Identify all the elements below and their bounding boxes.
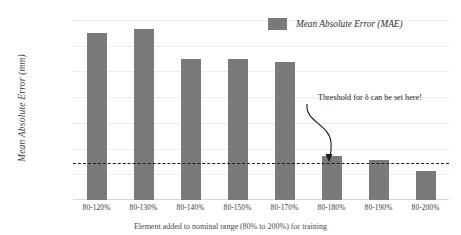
- bar[interactable]: [369, 160, 389, 200]
- bar-slot: [120, 20, 167, 200]
- x-tick-label: 80-200%: [402, 203, 449, 212]
- bar-slot: [261, 20, 308, 200]
- bar[interactable]: [275, 62, 295, 200]
- bar[interactable]: [416, 171, 436, 200]
- x-tick-label: 80-140%: [167, 203, 214, 212]
- x-axis-ticks: 80-120%80-130%80-140%80-150%80-170%80-18…: [73, 203, 449, 212]
- bar-series: [73, 20, 449, 200]
- bar-slot: [73, 20, 120, 200]
- bar-slot: [167, 20, 214, 200]
- legend-swatch-mae: [268, 18, 287, 30]
- x-tick-label: 80-120%: [73, 203, 120, 212]
- y-axis-title: Mean Absolute Error (mm): [17, 18, 27, 198]
- bar[interactable]: [134, 29, 154, 200]
- x-tick-label: 80-150%: [214, 203, 261, 212]
- x-tick-label: 80-170%: [261, 203, 308, 212]
- legend-label-mae: Mean Absolute Error (MAE): [296, 19, 403, 29]
- bar[interactable]: [181, 59, 201, 200]
- x-tick-label: 80-130%: [120, 203, 167, 212]
- x-tick-label: 80-180%: [308, 203, 355, 212]
- bar-slot: [402, 20, 449, 200]
- bar-slot: [355, 20, 402, 200]
- bar[interactable]: [87, 33, 107, 200]
- bar[interactable]: [228, 59, 248, 200]
- annotation-arrow-icon: [303, 100, 353, 166]
- chart-legend: Mean Absolute Error (MAE): [268, 18, 403, 30]
- x-axis-caption: Element added to nominal range (80% to 2…: [0, 222, 461, 231]
- x-tick-label: 80-190%: [355, 203, 402, 212]
- chart-figure: Mean Absolute Error (mm) 1.40E-011.20E-0…: [0, 0, 461, 235]
- plot-area: 1.40E-011.20E-011.00E-018.00E-026.00E-02…: [73, 20, 449, 200]
- bar-slot: [214, 20, 261, 200]
- threshold-line: [73, 163, 449, 164]
